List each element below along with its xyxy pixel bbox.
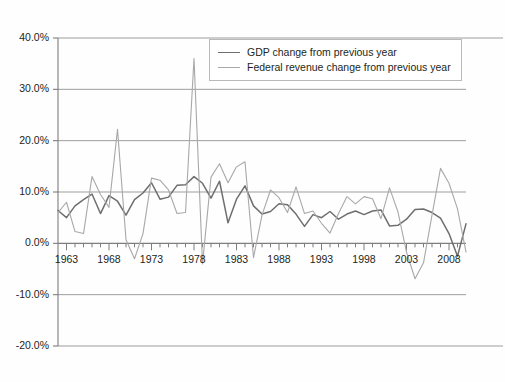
- y-tick-label-20: 20.0%: [0, 135, 49, 146]
- legend-swatch-federal-revenue: [218, 67, 240, 68]
- y-tick-label-10: 10.0%: [0, 186, 49, 197]
- y-tick-marks: [53, 38, 58, 346]
- x-tick-marks: [67, 243, 458, 250]
- y-tick-label--10: -10.0%: [0, 289, 49, 300]
- legend-item-gdp: GDP change from previous year: [218, 45, 451, 60]
- y-tick-label-40: 40.0%: [0, 32, 49, 43]
- legend-item-federal-revenue: Federal revenue change from previous yea…: [218, 60, 451, 75]
- chart-figure: 40.0%30.0%20.0%10.0%0.0%-10.0%-20.0% 196…: [0, 0, 505, 382]
- x-tick-label-2008: 2008: [424, 254, 474, 265]
- legend-label-federal-revenue: Federal revenue change from previous yea…: [247, 62, 451, 73]
- y-tick-label--20: -20.0%: [0, 340, 49, 351]
- legend-swatch-gdp: [218, 52, 240, 53]
- y-tick-label-0: 0.0%: [0, 237, 49, 248]
- legend-label-gdp: GDP change from previous year: [247, 47, 397, 58]
- y-tick-label-30: 30.0%: [0, 83, 49, 94]
- chart-legend: GDP change from previous year Federal re…: [209, 39, 462, 81]
